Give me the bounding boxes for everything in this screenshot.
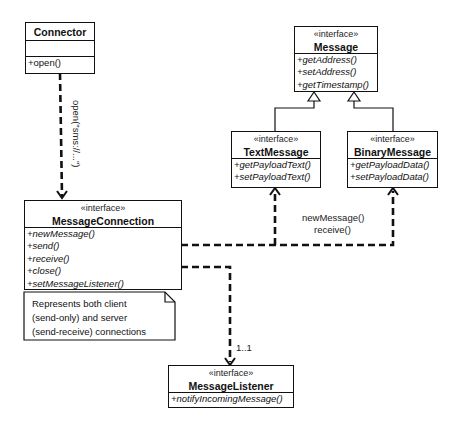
class-message[interactable]: «interface» Message +getAddress() +setAd…: [294, 26, 378, 92]
class-name: MessageListener: [169, 379, 293, 393]
operation: +getAddress(): [297, 54, 377, 66]
operation: +getPayloadText(): [234, 159, 320, 171]
attributes-section: [26, 41, 94, 57]
edge-label-open: open("sms://..."): [71, 100, 82, 167]
stereotype-label: «interface»: [348, 134, 437, 145]
operation: +send(): [27, 240, 181, 252]
edge-label-multiplicity: 1..1: [236, 342, 252, 353]
edge-label-new-message: newMessage(): [302, 212, 364, 223]
edge-label-receive: receive(): [314, 224, 351, 235]
class-binary-message[interactable]: «interface» BinaryMessage +getPayloadDat…: [347, 131, 438, 188]
class-name: BinaryMessage: [348, 145, 437, 159]
note-line: (send-only) and server: [32, 310, 167, 325]
operation: +setAddress(): [297, 66, 377, 78]
stereotype-label: «interface»: [232, 134, 320, 145]
operation: +setPayloadData(): [350, 171, 437, 183]
stereotype-label: «interface»: [25, 203, 181, 214]
operation: +getTimestamp(): [297, 79, 377, 91]
stereotype-label: «interface»: [169, 368, 293, 379]
stereotype-label: «interface»: [295, 29, 377, 40]
operation: +newMessage(): [27, 228, 181, 240]
class-message-listener[interactable]: «interface» MessageListener +notifyIncom…: [168, 365, 294, 408]
class-connector[interactable]: Connector +open(): [25, 22, 95, 74]
class-name: TextMessage: [232, 145, 320, 159]
operation: +notifyIncomingMessage(): [171, 393, 293, 405]
operation-open: +open(): [28, 57, 94, 69]
class-text-message[interactable]: «interface» TextMessage +getPayloadText(…: [231, 131, 321, 188]
class-name: MessageConnection: [25, 214, 181, 228]
operation: +close(): [27, 265, 181, 277]
operation: +setMessageListener(): [27, 278, 181, 290]
operation: +setPayloadText(): [234, 171, 320, 183]
operation: +getPayloadData(): [350, 159, 437, 171]
operation: +receive(): [27, 253, 181, 265]
note-line: (send-receive) connections: [32, 324, 167, 339]
class-name: Message: [295, 40, 377, 54]
class-name: Connector: [26, 25, 94, 39]
note-line: Represents both client: [32, 296, 167, 311]
class-message-connection[interactable]: «interface» MessageConnection +newMessag…: [24, 200, 182, 290]
note-comment[interactable]: Represents both client (send-only) and s…: [24, 292, 175, 340]
